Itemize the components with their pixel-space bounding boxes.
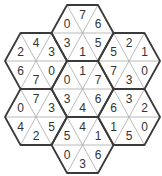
triangle-digit: 2	[126, 36, 133, 50]
triangle-digit: 4	[79, 120, 86, 134]
triangle-digit: 3	[126, 73, 133, 87]
triangle-digit: 7	[79, 8, 86, 22]
triangle-digit: 6	[95, 92, 102, 106]
triangle-digit: 7	[33, 73, 40, 87]
triangle-digit: 5	[110, 45, 117, 59]
triangle-digit: 7	[95, 73, 102, 87]
triangle-digit: 7	[110, 64, 117, 78]
triangle-digit: 3	[79, 157, 86, 171]
triangle-digit: 3	[48, 45, 55, 59]
triangle-digit: 0	[141, 120, 148, 134]
triangle-digit: 0	[141, 64, 148, 78]
triangle-digit: 2	[33, 129, 40, 143]
triangle-digit: 3	[64, 36, 71, 50]
hex-puzzle-board: 0763152436705217300173460734256321505410…	[0, 0, 162, 176]
triangle-digit: 6	[17, 64, 24, 78]
triangle-digit: 4	[33, 36, 40, 50]
triangle-digit: 2	[141, 101, 148, 115]
triangle-digit: 0	[17, 101, 24, 115]
triangle-digit: 5	[64, 129, 71, 143]
triangle-digit: 3	[64, 92, 71, 106]
triangle-digit: 7	[33, 92, 40, 106]
triangle-digit: 6	[110, 101, 117, 115]
triangle-digit: 6	[95, 17, 102, 31]
triangle-digit: 5	[126, 129, 133, 143]
triangle-digit: 2	[17, 45, 24, 59]
triangle-digit: 0	[64, 73, 71, 87]
triangle-digit: 1	[110, 120, 117, 134]
triangle-digit: 3	[48, 101, 55, 115]
triangle-digit: 1	[95, 129, 102, 143]
triangle-digit: 0	[64, 148, 71, 162]
triangle-digit: 0	[64, 17, 71, 31]
triangle-digit: 6	[95, 148, 102, 162]
triangle-digit: 4	[79, 101, 86, 115]
triangle-digit: 5	[95, 36, 102, 50]
triangle-digit: 4	[17, 120, 24, 134]
triangle-digit: 1	[79, 45, 86, 59]
triangle-digit: 5	[48, 120, 55, 134]
triangle-digit: 1	[79, 64, 86, 78]
triangle-digit: 0	[48, 64, 55, 78]
triangle-digit: 1	[141, 45, 148, 59]
triangle-digit: 3	[126, 92, 133, 106]
